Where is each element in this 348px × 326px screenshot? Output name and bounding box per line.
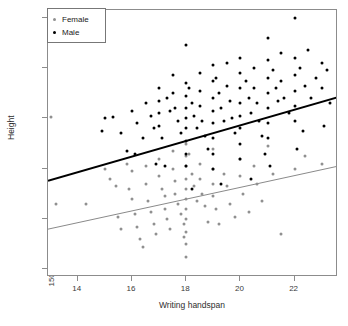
data-point-male <box>299 66 302 69</box>
data-point-female <box>223 172 226 175</box>
data-point-male <box>271 69 274 72</box>
data-point-male <box>220 107 223 110</box>
data-point-male <box>258 119 261 122</box>
data-point-male <box>198 104 201 107</box>
data-point-female <box>149 210 152 213</box>
data-point-male <box>269 165 272 168</box>
data-point-male <box>266 107 269 110</box>
data-point-male <box>266 137 269 140</box>
data-point-female <box>131 170 134 173</box>
data-point-female <box>185 255 188 258</box>
data-point-male <box>307 49 310 52</box>
x-axis-title: Writing handspan <box>159 300 225 310</box>
data-point-female <box>196 200 199 203</box>
data-point-female <box>174 192 177 195</box>
data-point-male <box>120 132 123 135</box>
data-point-female <box>212 182 215 185</box>
data-point-female <box>155 233 158 236</box>
data-point-male <box>179 132 182 135</box>
data-point-male <box>198 71 201 74</box>
x-tick-label: 16 <box>127 284 136 293</box>
data-point-male <box>323 124 326 127</box>
data-point-male <box>280 79 283 82</box>
data-point-female <box>152 223 155 226</box>
data-point-male <box>266 122 269 125</box>
data-point-female <box>131 197 134 200</box>
x-tick-label: 22 <box>289 284 298 293</box>
data-point-male <box>252 87 255 90</box>
data-point-male <box>250 112 253 115</box>
data-point-female <box>206 220 209 223</box>
data-point-male <box>190 187 193 190</box>
data-point-female <box>185 207 188 210</box>
x-tick <box>131 276 132 281</box>
data-point-male <box>168 109 171 112</box>
data-point-male <box>266 92 269 95</box>
data-point-male <box>212 152 215 155</box>
data-point-male <box>112 116 115 119</box>
data-point-female <box>252 165 255 168</box>
plot-area <box>48 10 336 275</box>
data-point-male <box>131 109 134 112</box>
data-point-male <box>204 134 207 137</box>
data-point-female <box>239 175 242 178</box>
data-point-male <box>212 109 215 112</box>
data-point-female <box>234 215 237 218</box>
data-point-male <box>266 77 269 80</box>
data-point-female <box>255 182 258 185</box>
plot-frame <box>47 9 337 276</box>
data-point-female <box>103 167 106 170</box>
data-point-female <box>320 162 323 165</box>
data-point-male <box>328 102 331 105</box>
data-point-male <box>158 99 161 102</box>
data-point-male <box>185 82 188 85</box>
data-point-male <box>288 112 291 115</box>
data-point-female <box>280 233 283 236</box>
data-point-female <box>261 200 264 203</box>
data-point-male <box>239 56 242 59</box>
legend-marker-male-icon <box>53 31 56 34</box>
data-point-female <box>271 172 274 175</box>
x-tick <box>294 276 295 281</box>
data-point-male <box>239 102 242 105</box>
data-point-male <box>185 117 188 120</box>
data-point-female <box>304 155 307 158</box>
data-point-female <box>171 150 174 153</box>
data-point-female <box>144 165 147 168</box>
data-point-male <box>247 97 250 100</box>
data-point-male <box>160 137 163 140</box>
data-point-male <box>171 92 174 95</box>
data-point-female <box>190 172 193 175</box>
data-point-female <box>163 207 166 210</box>
data-point-female <box>120 228 123 231</box>
y-axis-title: Height <box>6 115 16 140</box>
data-point-male <box>231 117 234 120</box>
data-point-male <box>215 77 218 80</box>
data-point-female <box>117 215 120 218</box>
data-point-female <box>185 230 188 233</box>
data-point-female <box>84 202 87 205</box>
data-point-male <box>293 74 296 77</box>
data-point-female <box>193 185 196 188</box>
data-point-female <box>185 243 188 246</box>
data-point-male <box>301 129 304 132</box>
data-point-male <box>193 114 196 117</box>
data-point-male <box>125 150 128 153</box>
data-point-male <box>220 182 223 185</box>
data-point-female <box>166 218 169 221</box>
data-point-male <box>177 119 180 122</box>
data-point-female <box>247 210 250 213</box>
data-point-male <box>261 134 264 137</box>
x-tick-label: 20 <box>235 284 244 293</box>
data-point-male <box>326 69 329 72</box>
data-point-male <box>266 36 269 39</box>
data-point-female <box>158 157 161 160</box>
data-point-male <box>304 84 307 87</box>
data-point-male <box>198 89 201 92</box>
data-point-female <box>160 187 163 190</box>
data-point-female <box>185 218 188 221</box>
data-point-female <box>144 182 147 185</box>
data-point-male <box>212 137 215 140</box>
data-point-male <box>212 64 215 67</box>
data-point-female <box>212 147 215 150</box>
